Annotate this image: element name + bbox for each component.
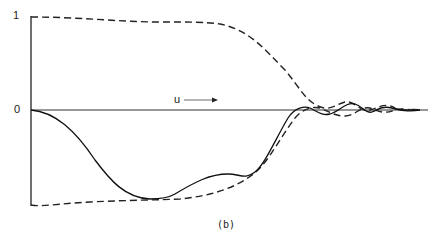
- response-curve: [31, 104, 420, 199]
- upper-envelope: [31, 17, 420, 110]
- lower-envelope: [31, 107, 420, 205]
- arrowhead-icon: [212, 98, 218, 103]
- y-tick-1: 1: [13, 9, 19, 21]
- chart-canvas: [0, 0, 445, 239]
- y-tick-0: 0: [14, 103, 20, 115]
- x-variable-label: u: [174, 93, 180, 105]
- figure-caption: (b): [217, 219, 235, 230]
